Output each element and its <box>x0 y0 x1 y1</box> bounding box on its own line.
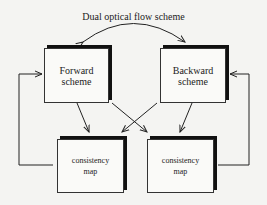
consistency-map-left-box: consistencymap <box>57 139 124 193</box>
curved-arrow <box>83 24 185 43</box>
consistency-map-right-box: consistencymap <box>147 139 214 193</box>
forward-scheme-box: Forwardscheme <box>44 48 109 103</box>
connectors <box>0 0 267 205</box>
backward-scheme-box: Backwardscheme <box>160 48 226 103</box>
